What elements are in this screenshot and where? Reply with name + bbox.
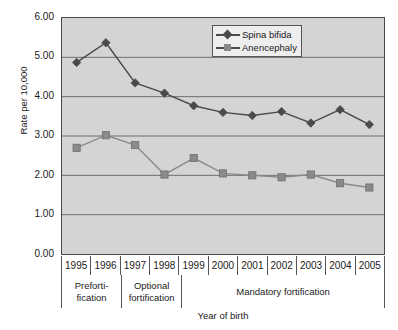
legend-label: Anencephaly [242, 42, 297, 54]
group-label-optional-fortification: Optional fortification [122, 275, 182, 308]
x-axis-title: Year of birth [61, 310, 385, 321]
x-axis-tick-label: 2002 [268, 256, 297, 275]
plot-area: Spina bifida Anencephaly [61, 17, 385, 255]
x-axis-tick-label: 1996 [91, 256, 120, 275]
group-label-line1: Mandatory fortification [236, 286, 329, 298]
x-axis-tick-label: 2005 [356, 256, 384, 275]
y-axis-tick-label: 3.00 [18, 129, 54, 140]
y-axis-tick-label: 4.00 [18, 90, 54, 101]
group-label-line1: Optional [134, 280, 169, 291]
x-axis-tick-label: 2003 [297, 256, 326, 275]
group-label-line2: fication [76, 292, 106, 303]
chart-legend: Spina bifida Anencephaly [212, 25, 302, 57]
x-axis-tick-label: 1997 [121, 256, 150, 275]
y-axis-tick-label: 1.00 [18, 208, 54, 219]
group-label-prefortification: Preforti- fication [62, 275, 122, 308]
legend-label: Spina bifida [242, 29, 292, 41]
group-label-line1: Preforti- [75, 280, 109, 291]
group-label-mandatory-fortification: Mandatory fortification [182, 275, 384, 308]
y-axis-tick-label: 0.00 [18, 248, 54, 259]
diamond-marker-icon [216, 29, 240, 41]
group-label-line2: fortification [129, 292, 175, 303]
x-axis-tick-label: 1998 [150, 256, 179, 275]
y-axis-tick-label: 5.00 [18, 50, 54, 61]
x-axis-tick-labels: 1995 1996 1997 1998 1999 2000 2001 2002 … [61, 256, 385, 275]
x-axis-tick-label: 1999 [179, 256, 208, 275]
x-axis-tick-label: 2000 [209, 256, 238, 275]
y-axis-tick-label: 2.00 [18, 169, 54, 180]
legend-item-spina-bifida: Spina bifida [216, 28, 297, 41]
y-axis-tick-labels: 6.00 5.00 4.00 3.00 2.00 1.00 0.00 [14, 0, 54, 330]
x-axis-tick-label: 1995 [62, 256, 91, 275]
legend-item-anencephaly: Anencephaly [216, 41, 297, 54]
x-axis-group-labels: Preforti- fication Optional fortificatio… [61, 275, 385, 308]
x-axis-tick-label: 2004 [326, 256, 355, 275]
line-chart: Rate per 10,000 6.00 5.00 4.00 3.00 2.00… [0, 0, 398, 330]
y-axis-tick-label: 6.00 [18, 11, 54, 22]
x-axis-tick-label: 2001 [238, 256, 267, 275]
square-marker-icon [216, 42, 240, 54]
